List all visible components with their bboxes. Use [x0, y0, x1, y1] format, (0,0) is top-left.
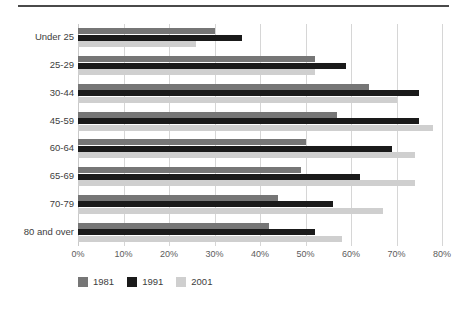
category-label: 65-69: [0, 171, 74, 181]
chart-legend: 198119912001: [78, 276, 212, 287]
bar-group: [78, 28, 442, 47]
bar-2001-65-69[interactable]: [78, 180, 415, 186]
bar-group: [78, 195, 442, 214]
bar-1991-under-25[interactable]: [78, 35, 242, 41]
category-label: 45-59: [0, 116, 74, 126]
x-tick-label: 20%: [160, 249, 178, 259]
bar-2001-30-44[interactable]: [78, 97, 397, 103]
bar-2001-60-64[interactable]: [78, 152, 415, 158]
legend-label: 1981: [93, 276, 114, 287]
bar-1981-60-64[interactable]: [78, 139, 306, 145]
legend-item-1991[interactable]: 1991: [127, 276, 163, 287]
bar-1991-25-29[interactable]: [78, 63, 346, 69]
category-label: Under 25: [0, 32, 74, 42]
x-tick-label: 80%: [433, 249, 451, 259]
legend-swatch-icon: [176, 277, 186, 287]
bar-2001-25-29[interactable]: [78, 69, 315, 75]
bar-group: [78, 223, 442, 242]
bar-1981-under-25[interactable]: [78, 28, 215, 34]
bar-1981-80-and-over[interactable]: [78, 223, 269, 229]
bar-2001-under-25[interactable]: [78, 41, 196, 47]
chart-figure: Under 2525-2930-4445-5960-6465-6970-7980…: [0, 0, 467, 312]
legend-item-2001[interactable]: 2001: [176, 276, 212, 287]
legend-swatch-icon: [127, 277, 137, 287]
bar-2001-70-79[interactable]: [78, 208, 383, 214]
header-rule: [18, 5, 449, 7]
x-tick-label: 70%: [387, 249, 405, 259]
bar-group: [78, 84, 442, 103]
bar-1991-70-79[interactable]: [78, 201, 333, 207]
bar-2001-80-and-over[interactable]: [78, 236, 342, 242]
value-axis-tick-labels: 0%10%20%30%40%50%60%70%80%: [78, 249, 442, 263]
x-tick-label: 40%: [251, 249, 269, 259]
bar-1991-60-64[interactable]: [78, 146, 392, 152]
x-tick-label: 0%: [71, 249, 84, 259]
bar-1991-65-69[interactable]: [78, 174, 360, 180]
legend-label: 1991: [142, 276, 163, 287]
x-tick-label: 10%: [114, 249, 132, 259]
bar-1991-45-59[interactable]: [78, 118, 419, 124]
bar-1991-30-44[interactable]: [78, 90, 419, 96]
bars-container: [78, 24, 442, 246]
bar-1981-45-59[interactable]: [78, 112, 337, 118]
bar-group: [78, 139, 442, 158]
x-tick-label: 30%: [205, 249, 223, 259]
legend-swatch-icon: [78, 277, 88, 287]
bar-1981-70-79[interactable]: [78, 195, 278, 201]
bar-group: [78, 167, 442, 186]
legend-item-1981[interactable]: 1981: [78, 276, 114, 287]
category-axis-labels: Under 2525-2930-4445-5960-6465-6970-7980…: [0, 24, 78, 246]
category-label: 25-29: [0, 60, 74, 70]
category-label: 70-79: [0, 199, 74, 209]
x-tick-label: 50%: [296, 249, 314, 259]
bar-1991-80-and-over[interactable]: [78, 229, 315, 235]
gridline: [442, 24, 443, 246]
legend-label: 2001: [191, 276, 212, 287]
bar-group: [78, 112, 442, 131]
bar-1981-30-44[interactable]: [78, 84, 369, 90]
bar-1981-65-69[interactable]: [78, 167, 301, 173]
category-label: 60-64: [0, 143, 74, 153]
category-label: 30-44: [0, 88, 74, 98]
x-tick-label: 60%: [342, 249, 360, 259]
chart-plot-area: Under 2525-2930-4445-5960-6465-6970-7980…: [0, 24, 467, 246]
bar-group: [78, 56, 442, 75]
category-label: 80 and over: [0, 227, 74, 237]
bar-1981-25-29[interactable]: [78, 56, 315, 62]
bar-2001-45-59[interactable]: [78, 125, 433, 131]
